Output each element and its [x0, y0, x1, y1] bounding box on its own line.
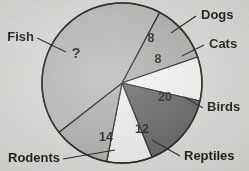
slice-value-cats: 8 [155, 52, 162, 66]
slice-value-birds: 20 [158, 90, 172, 104]
slice-value-fish: ? [71, 44, 80, 61]
slice-value-dogs: 8 [148, 31, 155, 45]
slice-value-rodents: 14 [99, 130, 113, 144]
category-label-fish: Fish [7, 29, 34, 44]
slice-value-reptiles: 12 [135, 122, 149, 136]
category-label-rodents: Rodents [8, 150, 60, 165]
category-label-reptiles: Reptiles [184, 148, 235, 163]
category-label-birds: Birds [207, 99, 240, 114]
category-label-cats: Cats [209, 36, 237, 51]
category-label-dogs: Dogs [201, 7, 234, 22]
pie-chart-svg: 88201214? DogsCatsBirdsReptilesRodentsFi… [0, 0, 249, 171]
pie-chart-figure: 88201214? DogsCatsBirdsReptilesRodentsFi… [0, 0, 249, 171]
